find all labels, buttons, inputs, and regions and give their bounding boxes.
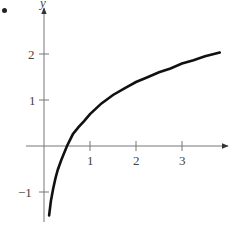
x-tick-label-3: 3 [179,153,186,168]
y-tick-label-neg1: −1 [18,185,32,200]
x-tick-label-2: 2 [133,153,140,168]
log-curve [49,53,220,216]
x-tick-label-1: 1 [87,153,94,168]
y-tick-label-1: 1 [29,93,36,108]
y-axis-label: y [38,0,46,10]
plot-area: 1 2 3 2 1 −1 y [0,0,234,226]
y-tick-label-2: 2 [28,47,35,62]
